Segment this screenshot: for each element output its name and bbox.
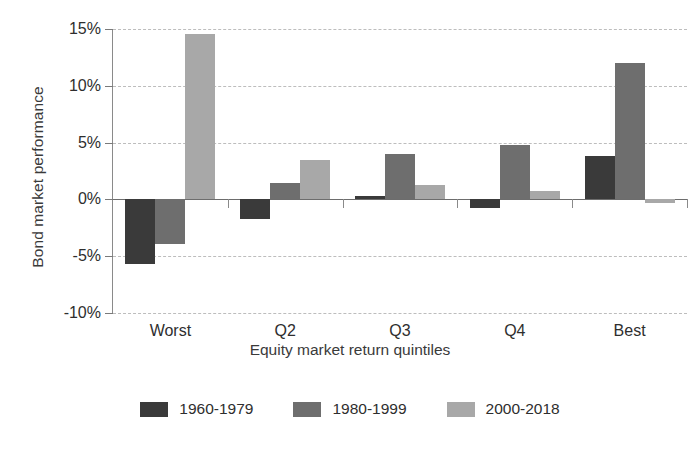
y-tick-label: 5% <box>78 134 101 152</box>
bar <box>615 63 645 199</box>
bar <box>415 185 445 200</box>
bar <box>470 199 500 208</box>
legend-item[interactable]: 1960-1979 <box>140 400 253 418</box>
bar <box>270 183 300 199</box>
y-tick-mark <box>105 143 113 144</box>
y-axis-spine <box>112 29 113 313</box>
zero-line <box>113 199 687 200</box>
legend-label: 1960-1979 <box>179 400 253 418</box>
y-tick-label: -10% <box>64 304 101 322</box>
bar <box>300 160 330 200</box>
y-tick-mark <box>105 86 113 87</box>
legend-item[interactable]: 1980-1999 <box>293 400 406 418</box>
y-axis-title: Bond market performance <box>29 47 47 307</box>
x-axis-end-tick <box>687 199 688 208</box>
y-tick-label: 0% <box>78 190 101 208</box>
plot-area: 15%10%5%0%-5%-10% WorstQ2Q3Q4Best <box>113 29 687 313</box>
x-group-tick <box>572 199 573 208</box>
y-tick-label: 10% <box>69 77 101 95</box>
x-axis-title: Equity market return quintiles <box>0 341 700 359</box>
chart-legend: 1960-19791980-19992000-2018 <box>0 400 700 418</box>
x-tick-label-q4: Q4 <box>504 322 525 340</box>
bar <box>385 154 415 199</box>
legend-swatch-icon <box>447 402 475 417</box>
gridline <box>113 313 687 314</box>
bar <box>530 191 560 199</box>
legend-label: 1980-1999 <box>332 400 406 418</box>
bar <box>645 199 675 202</box>
bar <box>585 156 615 199</box>
x-tick-label-worst: Worst <box>150 322 191 340</box>
legend-label: 2000-2018 <box>486 400 560 418</box>
bar <box>185 34 215 200</box>
x-group-tick <box>343 199 344 208</box>
bar <box>500 145 530 200</box>
x-group-tick <box>228 199 229 208</box>
gridline <box>113 256 687 257</box>
y-tick-mark <box>105 313 113 314</box>
bar <box>155 199 185 243</box>
bar <box>240 199 270 218</box>
y-tick-mark <box>105 256 113 257</box>
x-tick-label-best: Best <box>614 322 646 340</box>
y-tick-label: 15% <box>69 20 101 38</box>
x-tick-label-q3: Q3 <box>389 322 410 340</box>
gridline <box>113 29 687 30</box>
y-tick-mark <box>105 199 113 200</box>
bar <box>355 196 385 199</box>
x-tick-label-q2: Q2 <box>275 322 296 340</box>
x-group-tick <box>457 199 458 208</box>
bar <box>125 199 155 264</box>
bar-chart-figure: Bond market performance 15%10%5%0%-5%-10… <box>0 0 700 451</box>
legend-swatch-icon <box>140 402 168 417</box>
y-tick-label: -5% <box>73 247 101 265</box>
legend-item[interactable]: 2000-2018 <box>447 400 560 418</box>
legend-swatch-icon <box>293 402 321 417</box>
y-tick-mark <box>105 29 113 30</box>
